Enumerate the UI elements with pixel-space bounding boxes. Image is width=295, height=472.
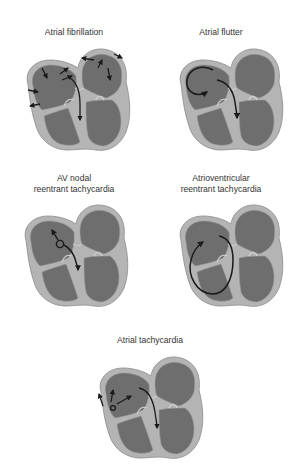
title-line: Atrial fibrillation: [0, 27, 148, 38]
heart-diagram: [173, 46, 285, 152]
title-line: AV nodal: [0, 173, 148, 184]
heart-diagram: [93, 354, 205, 460]
heart-diagram: [173, 202, 285, 308]
panel-atrial-flutter: Atrial flutter: [147, 0, 295, 160]
panel-title: Atrial fibrillation: [0, 27, 148, 38]
heart-diagram: [18, 202, 130, 308]
panel-atrial-fibrillation: Atrial fibrillation: [0, 0, 148, 160]
title-line: Atrial tachycardia: [70, 335, 230, 346]
panel-title: Atrioventricular reentrant tachycardia: [147, 173, 295, 194]
heart-diagram: [20, 46, 132, 152]
panel-atrioventricular-reentrant-tachycardia: Atrioventricular reentrant tachycardia: [147, 160, 295, 310]
title-line: Atrial flutter: [147, 27, 295, 38]
panel-atrial-tachycardia: Atrial tachycardia: [70, 320, 230, 472]
panel-title: Atrial tachycardia: [70, 335, 230, 346]
title-line: reentrant tachycardia: [147, 184, 295, 195]
panel-av-nodal-reentrant-tachycardia: AV nodal reentrant tachycardia: [0, 160, 148, 310]
panel-title: AV nodal reentrant tachycardia: [0, 173, 148, 194]
panel-title: Atrial flutter: [147, 27, 295, 38]
title-line: reentrant tachycardia: [0, 184, 148, 195]
title-line: Atrioventricular: [147, 173, 295, 184]
